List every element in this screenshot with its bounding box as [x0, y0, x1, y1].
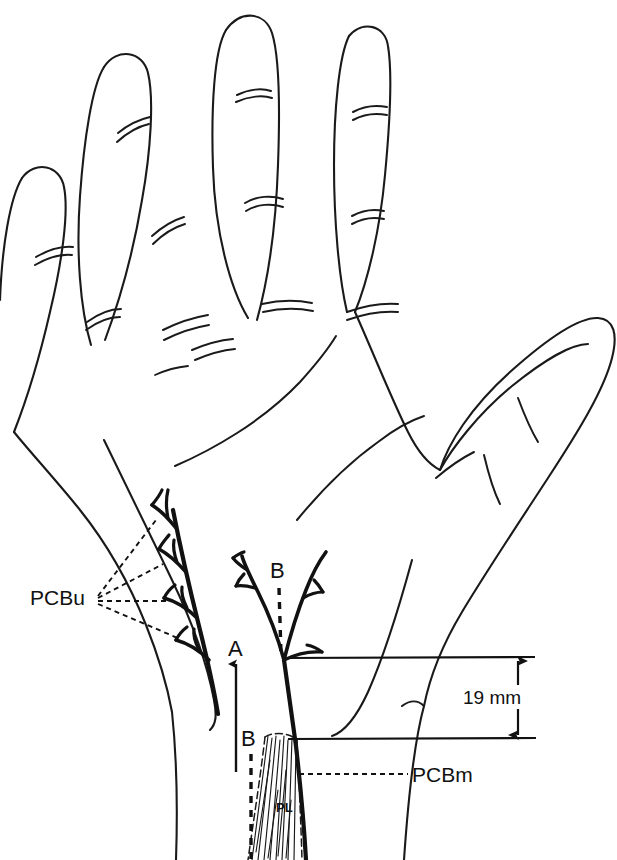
forearm-left-outline	[172, 712, 177, 860]
pl-label: PL	[276, 800, 293, 815]
pl-tendon-striations	[252, 736, 296, 860]
pcbm-branch-left-twig-1	[236, 586, 255, 588]
axis-a-label: A	[228, 636, 243, 661]
hypothenar-border	[104, 440, 216, 730]
finger-little-outline	[349, 27, 390, 312]
thumb-outer-outline	[424, 318, 615, 706]
palm-crease-proximal	[175, 336, 336, 466]
axis-b-lower-group: B	[241, 726, 256, 860]
crease-web-index-b	[263, 309, 313, 312]
dimension-group: 19 mm	[284, 657, 551, 739]
palm-crease-distal	[297, 416, 424, 520]
crease-index-prox-a	[245, 197, 283, 203]
pcbu-nerve-group	[152, 490, 218, 714]
pcbu-branch-1-twig-b	[167, 490, 169, 518]
pcbm-label: PCBm	[412, 763, 473, 786]
pcbu-label: PCBu	[30, 586, 85, 609]
pcbu-branch-2-twig	[159, 535, 169, 549]
hand-nerve-diagram-svg: PL PCBu A B B	[0, 0, 617, 860]
crease-web-ring-b	[195, 349, 235, 360]
crease-web-index-a	[262, 301, 312, 304]
finger-ring-outline-left	[0, 178, 22, 300]
pcbm-branch-right-twig-1b	[314, 580, 323, 592]
crease-middle-prox-a	[153, 224, 185, 244]
crease-ring-distal-a	[35, 255, 72, 265]
pcbm-branch-right	[284, 552, 326, 660]
palm-radial-edge	[355, 312, 440, 470]
thumb-crease-mp	[484, 455, 500, 504]
crease-index-distal-b	[236, 96, 272, 102]
axis-a-group: A	[228, 636, 243, 772]
axis-b-upper-line	[279, 588, 281, 654]
finger-little-outline-left	[334, 36, 349, 312]
crease-little-distal-b	[353, 114, 387, 120]
finger-middle-outline	[104, 54, 151, 340]
hand-outline-group	[0, 16, 615, 860]
finger-middle-outline-left	[78, 67, 104, 345]
crease-web-ring-c	[155, 366, 188, 375]
finger-index-outline-left	[212, 30, 248, 318]
crease-index-prox-b	[246, 205, 283, 211]
axis-b-upper-label: B	[270, 558, 285, 583]
pcbu-annotation-group: PCBu	[30, 520, 180, 639]
pcbu-branch-3-twig	[164, 585, 175, 598]
thumb-crease-ip	[518, 398, 538, 442]
crease-middle-distal-a	[117, 124, 149, 142]
pcbu-branch-1-twig	[152, 490, 162, 505]
crease-little-distal-a	[353, 106, 387, 112]
reference-line-lower	[288, 738, 536, 739]
pcbm-annotation-group: PCBm	[299, 763, 473, 786]
pcbu-main-trunk	[173, 510, 218, 714]
dimension-label: 19 mm	[463, 687, 521, 708]
pl-tendon-group: PL	[248, 734, 302, 860]
wrist-radial-curve	[332, 560, 412, 736]
axis-b-lower-label: B	[241, 726, 256, 751]
pcbu-branch-4-twig	[176, 627, 187, 640]
pcbu-leader-2	[98, 564, 163, 598]
finger-index-outline	[226, 16, 279, 320]
finger-ring-outline	[14, 167, 66, 432]
crease-web-middle-a	[163, 315, 208, 330]
anatomical-figure: PL PCBu A B B	[0, 0, 617, 860]
reference-line-upper	[284, 657, 535, 658]
crease-web-ring-a	[192, 339, 233, 350]
crease-index-distal-a	[237, 89, 271, 95]
forearm-right-outline-b	[402, 702, 424, 707]
